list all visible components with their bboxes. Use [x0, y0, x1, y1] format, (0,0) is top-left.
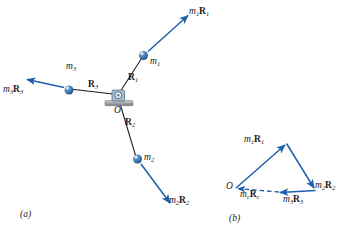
mass-sphere-m1 — [139, 51, 148, 60]
label-vector-m2r2: m2R2 — [169, 196, 189, 206]
label-vector-m1r1: m1R1 — [189, 7, 209, 17]
caption-panel-b: (b) — [229, 214, 240, 224]
vector-b-m3r3 — [280, 191, 316, 193]
label-b-vector-mcrc: mcRc — [240, 190, 260, 200]
label-mass-m1: m1 — [150, 57, 160, 67]
vector-m3r3 — [27, 80, 64, 88]
label-b-vector-m3r3: m3R3 — [283, 195, 303, 205]
label-vector-m3r3: m3R3 — [3, 85, 23, 95]
pivot-bearing — [105, 90, 133, 106]
vector-b-m1r1 — [236, 145, 285, 188]
label-arm-r2: R2 — [125, 118, 135, 128]
panel-b-group — [236, 144, 316, 193]
caption-panel-a: (a) — [20, 210, 31, 220]
vector-b-m2r2 — [287, 144, 315, 189]
mass-sphere-m2 — [133, 155, 142, 164]
label-mass-m3: m3 — [66, 62, 76, 72]
mass-sphere-m3 — [65, 86, 74, 95]
label-origin-a: O — [114, 106, 121, 116]
vector-m1r1 — [148, 16, 188, 52]
vector-m2r2 — [141, 164, 170, 203]
label-b-vector-m1r1: m1R1 — [244, 135, 264, 145]
label-arm-r1: R1 — [128, 73, 138, 83]
label-b-vector-m2r2: m2R2 — [315, 181, 335, 191]
label-mass-m2: m2 — [144, 153, 154, 163]
label-arm-r3: R3 — [88, 80, 98, 90]
label-origin-b: O — [226, 182, 233, 192]
panel-a-group — [27, 16, 188, 204]
